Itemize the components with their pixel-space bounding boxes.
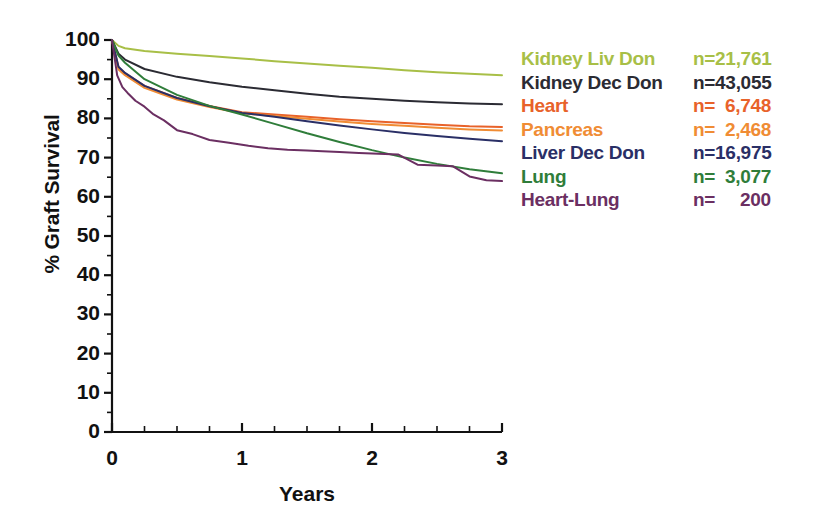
legend-item[interactable]: Pancreasn= 2,468: [521, 119, 811, 143]
legend-item[interactable]: Kidney Dec Donn=43,055: [521, 72, 811, 96]
x-tick-label: 3: [482, 446, 522, 470]
legend-item[interactable]: Kidney Liv Donn=21,761: [521, 48, 811, 72]
survival-curves-svg: [98, 34, 516, 446]
y-tick-label: 70: [42, 145, 100, 169]
legend-item-count: n= 6,748: [693, 95, 771, 117]
legend-item-label: Pancreas: [521, 119, 693, 141]
legend-item-label: Liver Dec Don: [521, 142, 693, 164]
y-tick-label: 40: [42, 262, 100, 286]
x-tick-label: 0: [92, 446, 132, 470]
legend-item[interactable]: Heartn= 6,748: [521, 95, 811, 119]
y-tick-label: 60: [42, 184, 100, 208]
legend-item-count: n=16,975: [693, 142, 771, 164]
y-tick-label: 30: [42, 301, 100, 325]
series-line-heart-lung: [112, 40, 502, 181]
legend-item-count: n=21,761: [693, 48, 771, 70]
legend-item-label: Heart-Lung: [521, 189, 693, 211]
x-axis-title: Years: [112, 482, 502, 506]
legend-item-label: Kidney Liv Don: [521, 48, 693, 70]
legend-item[interactable]: Heart-Lungn= 200: [521, 189, 811, 213]
legend-item-count: n= 3,077: [693, 166, 771, 188]
x-tick-label: 2: [352, 446, 392, 470]
legend-item-count: n= 200: [693, 189, 771, 211]
y-tick-label: 0: [42, 419, 100, 443]
legend-item-label: Heart: [521, 95, 693, 117]
y-tick-label: 100: [42, 27, 100, 51]
y-tick-label: 50: [42, 223, 100, 247]
chart-root: % Graft Survival 1009080706050403020100 …: [0, 0, 815, 519]
series-line-kidney-liv-don: [112, 40, 502, 75]
x-axis-tick-labels: 0123: [112, 446, 502, 476]
legend-item-count: n= 2,468: [693, 119, 771, 141]
legend-item-label: Kidney Dec Don: [521, 72, 693, 94]
plot-area: [112, 40, 502, 432]
x-tick-label: 1: [222, 446, 262, 470]
y-tick-label: 80: [42, 105, 100, 129]
legend: Kidney Liv Donn=21,761Kidney Dec Donn=43…: [521, 48, 811, 213]
y-tick-label: 10: [42, 380, 100, 404]
legend-item[interactable]: Lungn= 3,077: [521, 166, 811, 190]
y-tick-label: 90: [42, 66, 100, 90]
legend-item[interactable]: Liver Dec Donn=16,975: [521, 142, 811, 166]
legend-item-label: Lung: [521, 166, 693, 188]
series-line-lung: [112, 40, 502, 173]
y-tick-label: 20: [42, 341, 100, 365]
y-axis-tick-labels: 1009080706050403020100: [38, 40, 100, 432]
legend-item-count: n=43,055: [693, 72, 771, 94]
